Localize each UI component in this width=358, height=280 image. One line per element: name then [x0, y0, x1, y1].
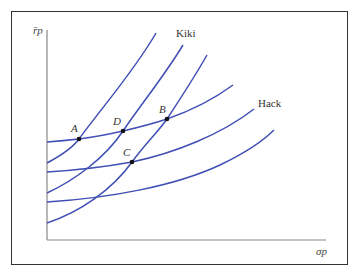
hack-curve-3	[47, 130, 274, 202]
kiki-label: Kiki	[176, 28, 196, 39]
kiki-curve-1	[47, 33, 156, 163]
kiki-curve-3	[47, 55, 207, 223]
point-c-dot	[130, 160, 135, 165]
point-d-dot	[121, 129, 126, 134]
y-axis-label: r̄p	[33, 25, 43, 36]
point-b-label: B	[159, 104, 166, 115]
point-b-dot	[165, 117, 170, 122]
point-d-label: D	[113, 116, 121, 127]
x-axis-label: σp	[316, 246, 327, 257]
indifference-curves-diagram	[0, 0, 358, 280]
point-a-dot	[77, 137, 82, 142]
point-c-label: C	[123, 147, 130, 158]
hack-label: Hack	[258, 98, 281, 109]
point-a-label: A	[71, 123, 78, 134]
